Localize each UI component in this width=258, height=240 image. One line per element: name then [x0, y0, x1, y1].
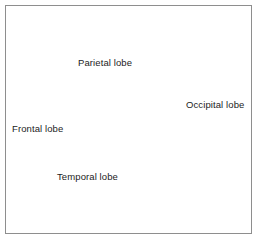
label-temporal-lobe: Temporal lobe	[57, 171, 118, 182]
label-occipital-lobe: Occipital lobe	[186, 99, 244, 110]
figure-border	[5, 5, 252, 234]
brain-diagram-figure: Parietal lobe Frontal lobe Occipital lob…	[0, 0, 258, 240]
label-parietal-lobe: Parietal lobe	[78, 57, 132, 68]
label-frontal-lobe: Frontal lobe	[12, 123, 63, 134]
